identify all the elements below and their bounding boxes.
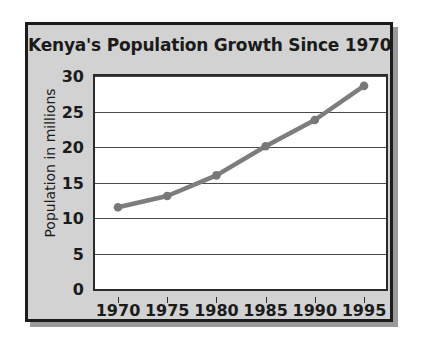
y-axis-tick-label: 30 <box>62 67 84 86</box>
y-axis-tick-label: 10 <box>62 209 84 228</box>
x-axis-tick-label: 1995 <box>342 301 387 320</box>
y-axis-tick-label: 0 <box>73 280 84 299</box>
data-point-marker <box>311 116 320 125</box>
chart-title: Kenya's Population Growth Since 1970 <box>28 35 390 55</box>
x-axis-tick-label: 1975 <box>145 301 190 320</box>
data-point-marker <box>114 203 123 212</box>
series-line <box>118 86 364 207</box>
data-series-line <box>95 76 386 289</box>
x-axis-tick-label: 1985 <box>243 301 288 320</box>
y-axis-tick-label: 25 <box>62 102 84 121</box>
x-axis-tick-labels: 197019751980198519901995 <box>93 297 388 323</box>
chart-panel: Kenya's Population Growth Since 1970 Pop… <box>25 22 393 322</box>
data-point-marker <box>212 171 221 180</box>
y-axis-tick-label: 20 <box>62 138 84 157</box>
y-axis-tick-label: 15 <box>62 173 84 192</box>
y-axis-tick-label: 5 <box>73 244 84 263</box>
x-axis-tick-label: 1990 <box>293 301 338 320</box>
data-point-marker <box>360 82 369 91</box>
x-axis-tick-label: 1980 <box>194 301 239 320</box>
data-point-marker <box>163 192 172 201</box>
y-axis-tick-labels: 051015202530 <box>28 74 90 291</box>
x-axis-tick-label: 1970 <box>96 301 141 320</box>
data-point-marker <box>261 142 270 151</box>
plot-area <box>93 74 388 291</box>
